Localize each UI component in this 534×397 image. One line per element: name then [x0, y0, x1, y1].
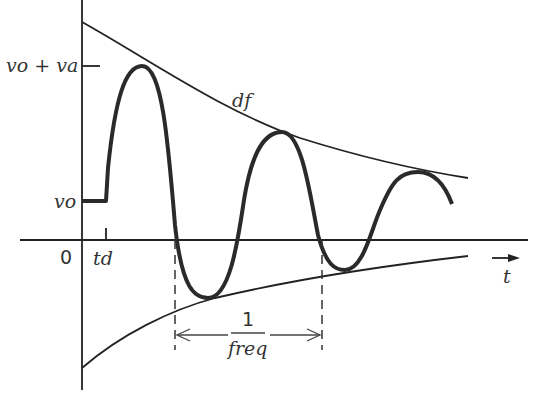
time-axis-label: t [503, 265, 511, 287]
period-numerator: 1 [242, 308, 254, 330]
delay-label: td [93, 247, 113, 269]
lower-envelope [82, 256, 468, 368]
peak-label: vo + va [6, 54, 78, 76]
period-denominator: freq [226, 337, 268, 359]
damped-sine-curve [82, 66, 452, 298]
offset-label: vo [54, 190, 76, 212]
time-arrow-icon [508, 254, 520, 262]
damping-label: df [232, 89, 254, 111]
upper-envelope [82, 22, 468, 178]
waveform-diagram: vo + va vo 0 td df t 1 freq [0, 0, 534, 397]
origin-label: 0 [60, 246, 72, 268]
